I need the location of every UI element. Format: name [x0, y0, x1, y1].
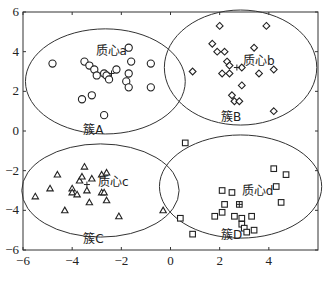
- y-tick-label: 4: [13, 44, 20, 59]
- centroid-label: 质心c: [98, 175, 129, 189]
- circle-marker-icon: [101, 112, 108, 119]
- cluster-scatter-chart: 质心a质心b质心c质心d簇A簇B簇C簇D −6−4−2024−6−4−20246: [0, 0, 324, 281]
- square-marker-icon: [229, 190, 235, 196]
- square-marker-icon: [239, 215, 245, 221]
- diamond-marker-icon: [226, 70, 233, 77]
- square-marker-icon: [271, 166, 277, 172]
- x-tick-label: 0: [167, 253, 174, 268]
- square-marker-icon: [212, 213, 218, 219]
- square-marker-icon: [283, 172, 289, 178]
- square-marker-icon: [278, 200, 284, 206]
- cluster-label: 簇D: [221, 227, 242, 242]
- diamond-marker-icon: [219, 70, 226, 77]
- y-tick-label: −4: [5, 202, 19, 217]
- square-marker-icon: [190, 231, 196, 237]
- square-marker-icon: [273, 184, 279, 190]
- triangle-marker-icon: [160, 207, 166, 213]
- diamond-marker-icon: [214, 48, 221, 55]
- centroid-label: 质心a: [96, 44, 127, 58]
- circle-marker-icon: [147, 84, 154, 91]
- triangle-marker-icon: [84, 187, 90, 193]
- x-tick-label: −2: [114, 253, 128, 268]
- triangle-marker-icon: [47, 185, 53, 191]
- circle-marker-icon: [125, 84, 132, 91]
- circle-marker-icon: [88, 92, 95, 99]
- circle-marker-icon: [105, 76, 112, 83]
- y-tick-label: 6: [13, 4, 20, 19]
- centroid-label: 质心d: [242, 184, 274, 198]
- triangle-marker-icon: [116, 213, 122, 219]
- x-tick-label: 4: [266, 253, 273, 268]
- square-marker-icon: [178, 215, 184, 221]
- square-marker-icon: [249, 213, 255, 219]
- triangle-marker-icon: [103, 197, 109, 203]
- centroid-plus-icon: [84, 182, 90, 188]
- diamond-marker-icon: [189, 68, 196, 75]
- y-tick-label: 2: [13, 83, 20, 98]
- diamond-marker-icon: [270, 108, 277, 115]
- diamond-marker-icon: [236, 98, 243, 105]
- y-tick-label: −2: [5, 163, 19, 178]
- triangle-marker-icon: [79, 173, 85, 179]
- circle-marker-icon: [49, 60, 56, 67]
- square-marker-icon: [182, 140, 188, 146]
- cluster-label: 簇A: [83, 122, 104, 137]
- diamond-marker-icon: [221, 48, 228, 55]
- square-marker-icon: [222, 202, 228, 208]
- square-marker-icon: [219, 210, 225, 216]
- cluster-ellipses: [22, 10, 322, 238]
- square-marker-icon: [244, 229, 250, 235]
- y-tick-label: 0: [13, 123, 20, 138]
- triangle-marker-icon: [86, 199, 92, 205]
- circle-marker-icon: [125, 70, 132, 77]
- centroid-label: 质心b: [243, 54, 275, 68]
- circle-marker-icon: [93, 72, 100, 79]
- square-marker-icon: [232, 213, 238, 219]
- cluster-label: 簇C: [83, 231, 103, 246]
- diamond-marker-icon: [256, 70, 263, 77]
- triangle-marker-icon: [81, 164, 87, 170]
- centroid-plus-icon: [234, 65, 240, 71]
- diamond-marker-icon: [263, 22, 270, 29]
- circle-marker-icon: [113, 66, 120, 73]
- square-marker-icon: [251, 227, 257, 233]
- x-tick-label: 2: [216, 253, 223, 268]
- circle-marker-icon: [128, 58, 135, 65]
- diamond-marker-icon: [216, 22, 223, 29]
- triangle-marker-icon: [89, 175, 95, 181]
- triangle-marker-icon: [54, 171, 60, 177]
- circle-marker-icon: [147, 60, 154, 67]
- square-marker-icon: [219, 188, 225, 194]
- diamond-marker-icon: [209, 40, 216, 47]
- y-tick-label: −6: [5, 242, 19, 257]
- cluster-label: 簇B: [221, 109, 241, 124]
- triangle-marker-icon: [32, 193, 38, 199]
- diamond-marker-icon: [251, 44, 258, 51]
- x-tick-label: −4: [65, 253, 79, 268]
- diamond-marker-icon: [238, 82, 245, 89]
- circle-marker-icon: [78, 96, 85, 103]
- triangle-marker-icon: [62, 207, 68, 213]
- plot-frame: [23, 12, 318, 250]
